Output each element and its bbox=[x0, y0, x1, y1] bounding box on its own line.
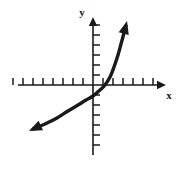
x-axis-label: x bbox=[166, 89, 172, 101]
y-axis-label: y bbox=[79, 6, 85, 18]
graph-canvas: y x bbox=[0, 0, 182, 169]
exponential-function-graph: y x bbox=[0, 0, 182, 169]
